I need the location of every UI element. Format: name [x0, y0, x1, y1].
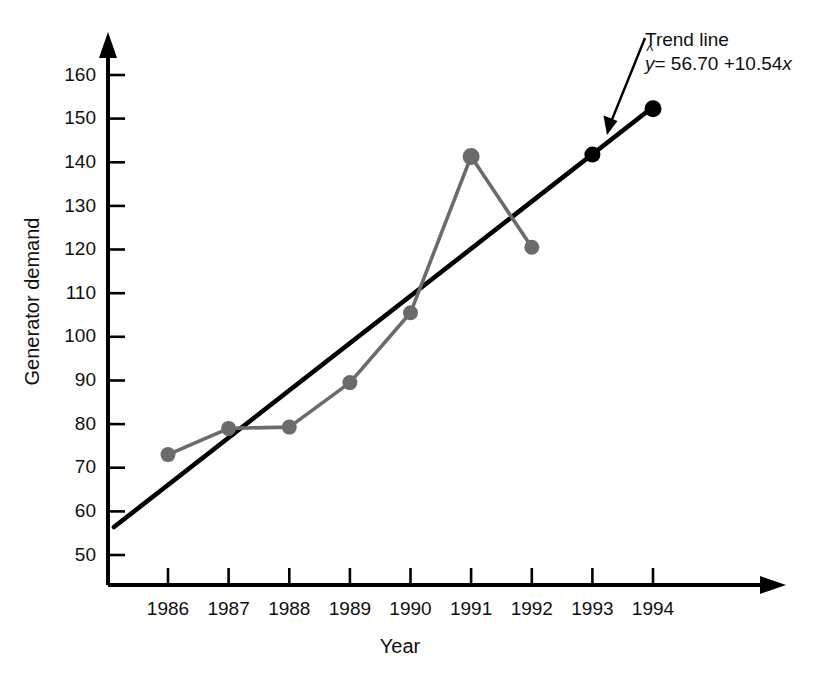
y-tick-label-50: 50 — [36, 544, 96, 566]
x-axis-title: Year — [300, 635, 500, 658]
y-axis-ticks — [108, 75, 125, 555]
generator-demand-series — [161, 148, 540, 462]
data-point — [403, 305, 418, 320]
y-tick-label-90: 90 — [36, 369, 96, 391]
y-axis — [99, 32, 117, 585]
line-chart-figure: 160 150 140 130 120 110 100 90 80 70 60 … — [0, 0, 830, 676]
y-tick-label-120: 120 — [36, 238, 96, 260]
y-tick-label-140: 140 — [36, 151, 96, 173]
chart-plot-area — [0, 0, 830, 676]
data-point — [524, 240, 539, 255]
x-axis-ticks — [168, 568, 653, 585]
hat-accent: ^ — [645, 43, 655, 58]
trend-line-annotation-label: Trend line — [645, 28, 792, 52]
data-point — [342, 375, 357, 390]
data-point — [221, 421, 236, 436]
data-point — [161, 447, 176, 462]
x-tick-label-1994: 1994 — [613, 598, 693, 620]
y-tick-label-110: 110 — [36, 282, 96, 304]
y-tick-label-80: 80 — [36, 413, 96, 435]
y-axis-title: Generator demand — [21, 202, 44, 402]
y-tick-label-60: 60 — [36, 500, 96, 522]
data-point — [463, 148, 480, 165]
y-tick-label-160: 160 — [36, 64, 96, 86]
trend-line-equation: ^y= 56.70 +10.54x — [645, 52, 792, 76]
trend-line-annotation: Trend line ^y= 56.70 +10.54x — [645, 28, 792, 77]
data-point — [282, 420, 297, 435]
equation-body: = 56.70 +10.54 — [655, 53, 783, 74]
y-tick-label-70: 70 — [36, 456, 96, 478]
y-tick-label-150: 150 — [36, 107, 96, 129]
y-hat-symbol: ^y — [645, 52, 655, 76]
y-tick-label-130: 130 — [36, 195, 96, 217]
y-tick-label-100: 100 — [36, 325, 96, 347]
equation-variable: x — [782, 53, 792, 74]
trend-line-series — [114, 100, 662, 527]
x-axis — [108, 576, 786, 594]
